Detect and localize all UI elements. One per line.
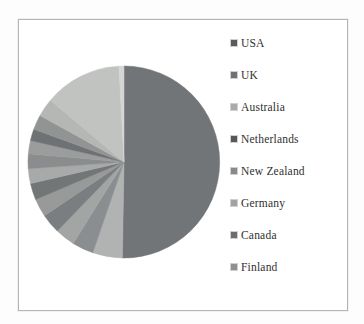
legend-item-finland: Finland: [231, 260, 278, 274]
legend-marker-icon: [231, 232, 237, 238]
legend-marker-icon: [231, 200, 237, 206]
legend-label: USA: [241, 36, 265, 50]
legend-label: Germany: [241, 196, 285, 210]
legend-item-canada: Canada: [231, 228, 277, 242]
legend-marker-icon: [231, 264, 237, 270]
legend-label: New Zealand: [241, 164, 305, 178]
legend-item-uk: UK: [231, 68, 258, 82]
pie-slice-usa: [122, 66, 219, 258]
legend-label: Canada: [241, 228, 277, 242]
legend-label: UK: [241, 68, 258, 82]
legend-item-germany: Germany: [231, 196, 285, 210]
legend-marker-icon: [231, 40, 237, 46]
legend-marker-icon: [231, 72, 237, 78]
legend-item-australia: Australia: [231, 100, 285, 114]
chart-screenshot: USAUKAustraliaNetherlandsNew ZealandGerm…: [0, 0, 364, 324]
legend-label: Netherlands: [241, 132, 299, 146]
legend-label: Australia: [241, 100, 285, 114]
legend-item-new-zealand: New Zealand: [231, 164, 305, 178]
legend-marker-icon: [231, 136, 237, 142]
legend-item-usa: USA: [231, 36, 265, 50]
legend-marker-icon: [231, 104, 237, 110]
legend-label: Finland: [241, 260, 278, 274]
legend-item-netherlands: Netherlands: [231, 132, 299, 146]
legend-marker-icon: [231, 168, 237, 174]
pie-chart: [0, 0, 364, 324]
